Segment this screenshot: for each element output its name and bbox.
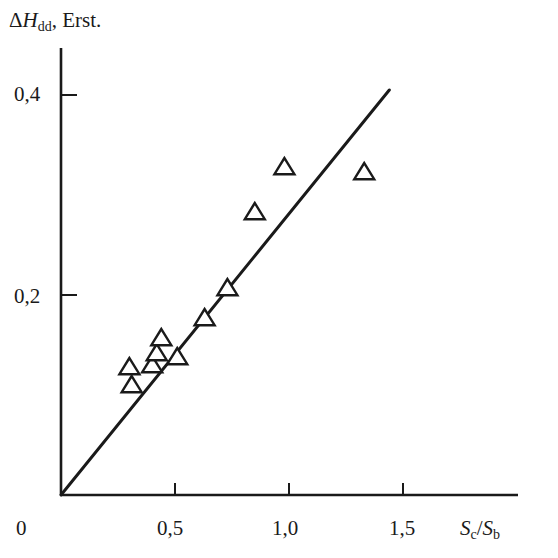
x-tick-label-1.0: 1,0 [272, 516, 298, 541]
data-point-triangle [245, 203, 265, 219]
y-tick-label-0.2: 0,2 [14, 284, 40, 309]
y-tick-label-0.4: 0,4 [14, 82, 40, 107]
data-point-triangle [167, 348, 187, 364]
x-tick-label-1.5: 1,5 [389, 516, 415, 541]
origin-label: 0 [16, 516, 27, 541]
x-tick-label-0.5: 0,5 [157, 516, 183, 541]
data-point-triangle [147, 344, 167, 360]
data-point-triangle [119, 358, 139, 374]
y-axis-label: ΔHdd, Erst. [9, 8, 101, 35]
data-point-triangle [274, 158, 294, 174]
x-axis-label: Sc/Sb [460, 516, 500, 543]
chart-canvas [0, 0, 558, 558]
data-point-triangle [354, 163, 374, 179]
data-point-triangle [151, 329, 171, 345]
data-point-triangle [122, 376, 142, 392]
